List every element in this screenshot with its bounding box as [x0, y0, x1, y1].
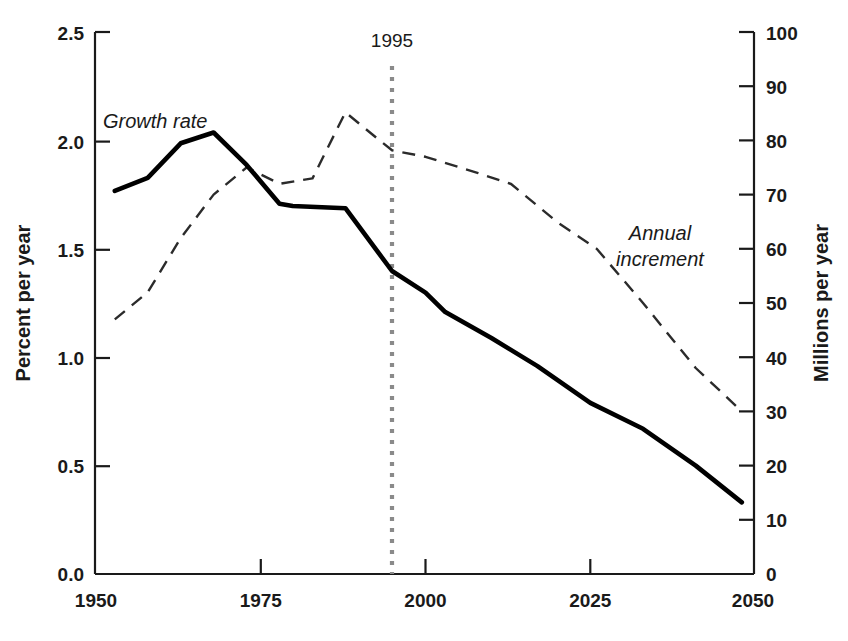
left-tick-label-0.5: 0.5: [58, 456, 85, 477]
annual-increment-label-line1: Annualincrement: [616, 222, 705, 270]
left-tick-label-2.0: 2.0: [58, 132, 84, 153]
right-axis-tick-labels: 100 90 80 70 60 50 40 30 20 10 0: [766, 23, 798, 585]
chart-canvas: 2.5 2.0 1.5 1.0 0.5 0.0 100 90 80 70 60: [0, 0, 848, 641]
annual-increment-label: Annualincrement: [616, 222, 705, 270]
left-axis-title: Percent per year: [12, 224, 34, 381]
left-tick-label-0.0: 0.0: [58, 564, 84, 585]
x-tick-label-1950: 1950: [75, 590, 117, 611]
left-axis-tick-labels: 2.5 2.0 1.5 1.0 0.5 0.0: [58, 23, 85, 585]
population-growth-chart-figure: 2.5 2.0 1.5 1.0 0.5 0.0 100 90 80 70 60: [0, 0, 848, 641]
growth-rate-label: Growth rate: [103, 110, 207, 132]
right-axis-title: Millions per year: [810, 224, 832, 382]
x-axis-ticks: [261, 559, 591, 574]
series-growth-rate: [115, 133, 742, 503]
right-tick-label-40: 40: [766, 348, 787, 369]
right-axis-ticks: [739, 86, 754, 520]
right-tick-label-90: 90: [766, 77, 787, 98]
year-1995-marker: 1995: [371, 30, 413, 574]
year-marker-label: 1995: [371, 30, 413, 51]
x-axis-tick-labels: 1950 1975 2000 2025 2050: [75, 590, 774, 611]
right-tick-label-10: 10: [766, 510, 787, 531]
left-tick-label-1.5: 1.5: [58, 240, 85, 261]
right-tick-label-100: 100: [766, 23, 798, 44]
x-tick-label-2000: 2000: [404, 590, 446, 611]
right-tick-label-20: 20: [766, 456, 787, 477]
left-tick-label-2.5: 2.5: [58, 23, 85, 44]
x-tick-label-1975: 1975: [240, 590, 283, 611]
x-tick-label-2025: 2025: [569, 590, 612, 611]
annual-increment-label-word-1: increment: [616, 248, 705, 270]
right-tick-label-70: 70: [766, 185, 787, 206]
right-tick-label-50: 50: [766, 293, 787, 314]
left-tick-label-1.0: 1.0: [58, 348, 84, 369]
right-tick-label-80: 80: [766, 131, 787, 152]
annual-increment-label-word-0: Annual: [628, 222, 692, 244]
left-axis-ticks: [95, 142, 110, 467]
right-tick-label-30: 30: [766, 402, 787, 423]
x-tick-label-2050: 2050: [732, 590, 774, 611]
right-tick-label-60: 60: [766, 239, 787, 260]
right-tick-label-0: 0: [766, 564, 777, 585]
